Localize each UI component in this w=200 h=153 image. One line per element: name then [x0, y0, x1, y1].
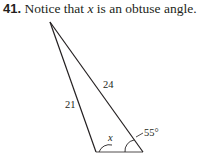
angle-55-arc — [125, 140, 134, 152]
angle-55-pointer — [136, 133, 143, 137]
angle-55-label: 55° — [144, 127, 159, 138]
side-21-line — [50, 22, 96, 152]
angle-x-arc — [99, 145, 112, 152]
angle-x-label: x — [108, 132, 113, 143]
side-24-label: 24 — [103, 79, 114, 90]
side-21-label: 21 — [65, 99, 76, 110]
side-24-line — [50, 22, 143, 152]
triangle-figure — [0, 0, 200, 153]
